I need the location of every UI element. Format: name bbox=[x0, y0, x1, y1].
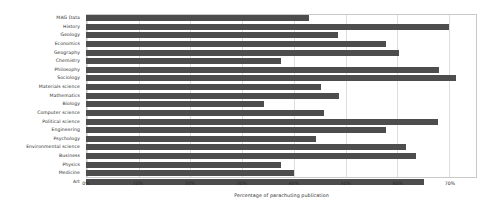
category-label: Materials science bbox=[39, 85, 80, 90]
bar-row bbox=[86, 74, 477, 83]
category-label: Geology bbox=[61, 33, 80, 38]
bar bbox=[86, 32, 338, 38]
category-label-row: Psychology bbox=[0, 135, 83, 144]
x-tick-label: 70% bbox=[445, 181, 455, 186]
bar bbox=[86, 153, 416, 159]
category-axis-labels: MAG DataHistoryGeologyEconomicsGeography… bbox=[0, 14, 83, 178]
bar bbox=[86, 119, 438, 125]
x-tick-label: 0% bbox=[82, 181, 89, 186]
x-tick-label: 50% bbox=[341, 181, 351, 186]
x-axis-title: Percentage of parachuting publication bbox=[86, 193, 477, 198]
bar-chart-figure: MAG DataHistoryGeologyEconomicsGeography… bbox=[0, 0, 499, 209]
bar-row bbox=[86, 178, 477, 187]
category-label: History bbox=[63, 25, 80, 30]
category-label-row: Medicine bbox=[0, 169, 83, 178]
bar-row bbox=[86, 92, 477, 101]
category-label-row: Political science bbox=[0, 118, 83, 127]
category-label: Sociology bbox=[57, 76, 80, 81]
bar-row bbox=[86, 66, 477, 75]
bar bbox=[86, 110, 324, 116]
category-label: Environmental science bbox=[26, 145, 80, 150]
x-tick-label: 60% bbox=[393, 181, 403, 186]
category-label: Mathematics bbox=[50, 94, 80, 99]
bar bbox=[86, 84, 321, 90]
bar bbox=[86, 101, 264, 107]
bar bbox=[86, 127, 386, 133]
bar bbox=[86, 24, 449, 30]
bar-row bbox=[86, 143, 477, 152]
x-tick-label: 40% bbox=[289, 181, 299, 186]
category-label: Chemistry bbox=[56, 59, 80, 64]
bar bbox=[86, 41, 386, 47]
bar bbox=[86, 136, 316, 142]
bar-row bbox=[86, 40, 477, 49]
bar-row bbox=[86, 169, 477, 178]
bar bbox=[86, 144, 406, 150]
category-label-row: Art bbox=[0, 178, 83, 187]
category-label: MAG Data bbox=[56, 16, 80, 21]
category-label-row: Sociology bbox=[0, 74, 83, 83]
category-label: Physics bbox=[62, 163, 80, 168]
bar bbox=[86, 58, 281, 64]
category-label-row: MAG Data bbox=[0, 14, 83, 23]
category-label: Biology bbox=[62, 102, 80, 107]
category-label-row: Physics bbox=[0, 161, 83, 170]
category-label-row: Philosophy bbox=[0, 66, 83, 75]
category-label-row: Engineering bbox=[0, 126, 83, 135]
category-label-row: Materials science bbox=[0, 83, 83, 92]
bar bbox=[86, 50, 399, 56]
bar-row bbox=[86, 152, 477, 161]
category-label-row: Environmental science bbox=[0, 143, 83, 152]
bar bbox=[86, 162, 281, 168]
category-label: Engineering bbox=[52, 128, 80, 133]
bar bbox=[86, 15, 309, 21]
category-label: Computer science bbox=[37, 111, 80, 116]
bar-row bbox=[86, 23, 477, 32]
category-label: Art bbox=[73, 180, 80, 185]
category-label: Political science bbox=[42, 120, 80, 125]
category-label-row: Mathematics bbox=[0, 92, 83, 101]
bar-series bbox=[86, 14, 477, 178]
category-label-row: Geology bbox=[0, 31, 83, 40]
bar-row bbox=[86, 161, 477, 170]
x-tick-label: 20% bbox=[185, 181, 195, 186]
bar-row bbox=[86, 57, 477, 66]
category-label-row: Business bbox=[0, 152, 83, 161]
category-label-row: Biology bbox=[0, 100, 83, 109]
category-label-row: Chemistry bbox=[0, 57, 83, 66]
category-label: Medicine bbox=[59, 171, 80, 176]
category-label: Business bbox=[59, 154, 80, 159]
bar-row bbox=[86, 109, 477, 118]
category-label: Economics bbox=[55, 42, 80, 47]
category-label-row: Economics bbox=[0, 40, 83, 49]
category-label: Philosophy bbox=[54, 68, 80, 73]
bar bbox=[86, 75, 456, 81]
bar-row bbox=[86, 49, 477, 58]
bar-row bbox=[86, 118, 477, 127]
bar-row bbox=[86, 135, 477, 144]
bar bbox=[86, 67, 439, 73]
category-label-row: Computer science bbox=[0, 109, 83, 118]
bar bbox=[86, 170, 294, 176]
bar-row bbox=[86, 31, 477, 40]
bar-row bbox=[86, 83, 477, 92]
bar-row bbox=[86, 14, 477, 23]
x-tick-label: 10% bbox=[133, 181, 143, 186]
category-label-row: History bbox=[0, 23, 83, 32]
x-tick-label: 30% bbox=[237, 181, 247, 186]
bar-row bbox=[86, 126, 477, 135]
category-label-row: Geography bbox=[0, 49, 83, 58]
bar-row bbox=[86, 100, 477, 109]
category-label: Geography bbox=[54, 51, 80, 56]
category-label: Psychology bbox=[53, 137, 80, 142]
bar bbox=[86, 93, 339, 99]
